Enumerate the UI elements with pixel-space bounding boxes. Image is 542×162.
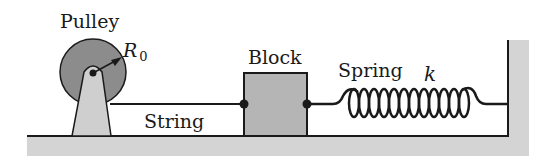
block-left-joint [240, 100, 249, 109]
ground [27, 136, 528, 156]
pulley-block-spring-diagram: Pulley R0 String Block Spring k [0, 0, 542, 162]
spring-constant-label: k [424, 62, 436, 86]
block [244, 73, 307, 136]
radius-label: R0 [122, 39, 148, 64]
string-label: String [144, 110, 204, 132]
spring [307, 88, 508, 117]
spring-label: Spring [338, 59, 403, 81]
pulley-label: Pulley [60, 10, 119, 32]
block-label: Block [248, 46, 302, 68]
wall [509, 40, 529, 156]
radius-subscript: 0 [139, 49, 147, 64]
